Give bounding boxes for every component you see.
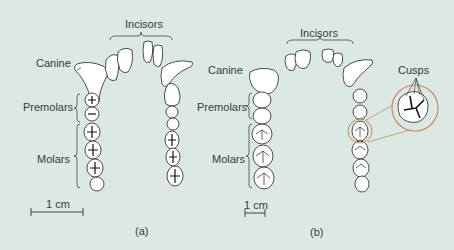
scale-bar-label-b: 1 cm — [244, 200, 268, 211]
label-molars-a: Molars — [37, 154, 70, 165]
label-cusps: Cusps — [398, 65, 429, 76]
label-incisors-a: Incisors — [125, 19, 163, 30]
label-premolars-a: Premolars — [23, 102, 73, 113]
panel-caption-a: (a) — [135, 225, 148, 237]
panel-b-teeth — [249, 36, 372, 192]
label-canine-b: Canine — [208, 65, 243, 76]
panel-a-brackets — [74, 68, 81, 188]
panel-a-teeth — [74, 32, 192, 191]
label-molars-b: Molars — [212, 154, 245, 165]
label-canine-a: Canine — [36, 58, 71, 69]
label-incisors-b: Incisors — [300, 28, 338, 39]
teeth-illustration — [0, 0, 454, 250]
dental-arcade-figure: Incisors Canine Premolars Molars 1 cm (a… — [0, 0, 454, 250]
scale-bar-label-a: 1 cm — [46, 199, 70, 210]
label-premolars-b: Premolars — [197, 102, 247, 113]
panel-caption-b: (b) — [310, 226, 323, 238]
